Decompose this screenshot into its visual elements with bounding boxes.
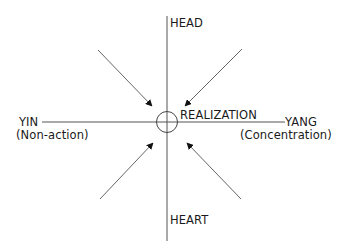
label-non-action: (Non-action) <box>16 129 89 142</box>
label-concentration: (Concentration) <box>240 129 332 142</box>
arrow-upper-left <box>98 50 152 106</box>
label-realization: REALIZATION <box>180 109 257 122</box>
arrow-lower-right <box>187 143 241 199</box>
arrow-upper-right <box>185 49 242 106</box>
arrow-lower-left <box>100 143 153 199</box>
label-heart: HEART <box>170 214 208 227</box>
label-head: HEAD <box>170 17 203 30</box>
